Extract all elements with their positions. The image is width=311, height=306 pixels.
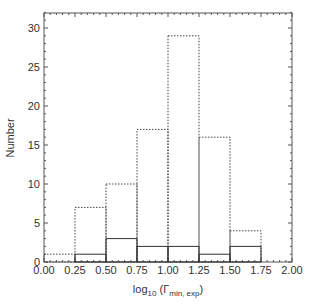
x-tick-label: 2.00 <box>281 264 302 276</box>
histogram-bar <box>137 246 168 262</box>
histogram-bar <box>75 254 106 262</box>
dashed-histogram-series <box>44 36 261 262</box>
histogram-chart: 051015202530 0.000.250.500.751.001.251.5… <box>0 0 311 306</box>
y-tick-label: 20 <box>28 100 40 112</box>
histogram-bar <box>199 254 230 262</box>
histogram-bar <box>168 36 199 262</box>
y-tick-label: 15 <box>28 139 40 151</box>
x-tick-label: 1.75 <box>250 264 271 276</box>
x-tick-label: 0.75 <box>126 264 147 276</box>
x-tick-label: 0.25 <box>64 264 85 276</box>
y-tick-label: 5 <box>34 217 40 229</box>
y-axis-label: Number <box>4 118 16 157</box>
histogram-bar <box>106 239 137 262</box>
histogram-bar <box>168 246 199 262</box>
x-tick-label: 1.50 <box>219 264 240 276</box>
x-tick-label: 0.50 <box>95 264 116 276</box>
y-axis-ticks: 051015202530 <box>28 12 292 268</box>
x-tick-label: 1.00 <box>157 264 178 276</box>
x-tick-label: 1.25 <box>188 264 209 276</box>
x-tick-label: 0.00 <box>33 264 54 276</box>
x-axis-label: log10 (Γmin, exp) <box>133 283 203 298</box>
y-tick-label: 30 <box>28 22 40 34</box>
y-tick-label: 25 <box>28 61 40 73</box>
histogram-bar <box>137 129 168 262</box>
histogram-bar <box>106 184 137 262</box>
histogram-bar <box>199 137 230 262</box>
y-tick-label: 10 <box>28 178 40 190</box>
histogram-bar <box>44 254 75 262</box>
histogram-bar <box>230 246 261 262</box>
solid-histogram-series <box>75 239 261 262</box>
